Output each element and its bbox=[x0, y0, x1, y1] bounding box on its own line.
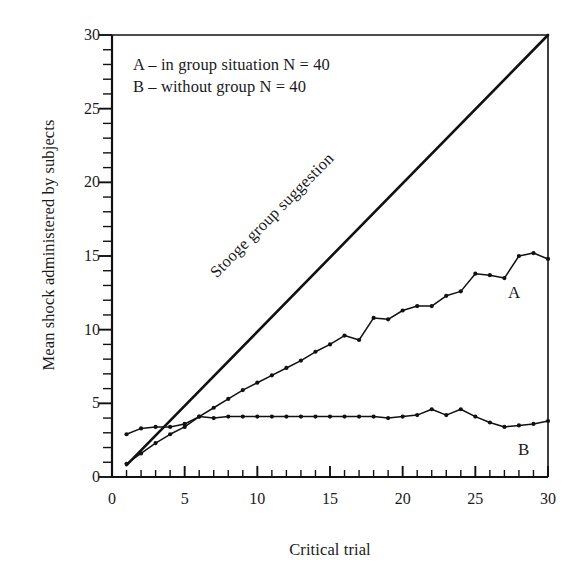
axis-major-ticks bbox=[99, 35, 548, 477]
y-tick-label: 30 bbox=[56, 26, 100, 44]
y-tick-label: 20 bbox=[56, 173, 100, 191]
legend-entry-b: B – without group N = 40 bbox=[133, 76, 330, 98]
x-axis-title: Critical trial bbox=[112, 540, 548, 560]
y-tick-label: 5 bbox=[56, 394, 100, 412]
x-tick-label: 30 bbox=[540, 490, 556, 508]
x-tick-label: 15 bbox=[322, 490, 338, 508]
series-a bbox=[124, 251, 550, 466]
y-tick-label: 15 bbox=[56, 247, 100, 265]
x-tick-label: 0 bbox=[108, 490, 116, 508]
x-tick-label: 25 bbox=[467, 490, 483, 508]
y-tick-label: 25 bbox=[56, 100, 100, 118]
curve-label-b: B bbox=[518, 440, 529, 460]
series-b bbox=[124, 407, 550, 436]
x-tick-label: 20 bbox=[395, 490, 411, 508]
legend-entry-a: A – in group situation N = 40 bbox=[133, 54, 330, 76]
x-tick-label: 5 bbox=[181, 490, 189, 508]
series-stooge-group-suggestion bbox=[127, 35, 548, 465]
y-tick-label: 0 bbox=[56, 468, 100, 486]
data-series-layer bbox=[124, 35, 550, 466]
y-tick-label: 10 bbox=[56, 321, 100, 339]
curve-label-a: A bbox=[508, 283, 520, 303]
chart-figure: Mean shock administered by subjects Crit… bbox=[0, 0, 584, 586]
x-tick-label: 10 bbox=[249, 490, 265, 508]
chart-legend: A – in group situation N = 40 B – withou… bbox=[133, 54, 330, 99]
